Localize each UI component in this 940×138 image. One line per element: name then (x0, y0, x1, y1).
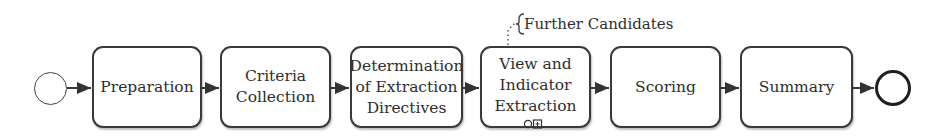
task-criteria-collection[interactable]: Criteria Collection (220, 46, 331, 128)
task-label: Preparation (100, 77, 193, 98)
task-label: View and Indicator Extraction (494, 54, 576, 117)
task-scoring[interactable]: Scoring (610, 46, 721, 128)
task-preparation[interactable]: Preparation (92, 46, 202, 128)
start-event[interactable] (34, 72, 67, 105)
ad-hoc-loop-icon (524, 120, 531, 127)
end-event[interactable] (875, 70, 911, 106)
annotation-association (508, 14, 524, 45)
task-summary[interactable]: Summary (740, 46, 853, 128)
task-label: Summary (759, 77, 834, 98)
task-view-and-indicator-extraction[interactable]: View and Indicator Extraction (480, 46, 591, 128)
subprocess-markers[interactable] (523, 119, 547, 129)
annotation-bracket-icon (516, 14, 524, 34)
task-determination-of-extraction-directives[interactable]: Determination of Extraction Directives (350, 46, 463, 128)
task-label: Scoring (635, 77, 696, 98)
annotation-further-candidates[interactable]: Further Candidates (524, 15, 673, 33)
task-label: Criteria Collection (236, 66, 315, 108)
task-label: Determination of Extraction Directives (350, 56, 464, 119)
